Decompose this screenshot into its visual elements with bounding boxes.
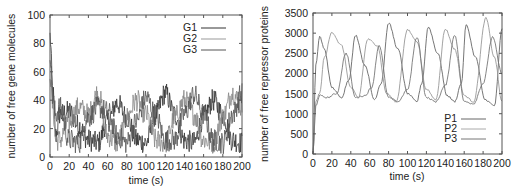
x-tick-label: 140 — [437, 157, 455, 169]
x-tick-label: 80 — [121, 160, 133, 172]
y-tick-label: 100 — [27, 9, 45, 21]
y-tick-label: 1500 — [285, 88, 309, 100]
legend: G1 G2 G3 — [183, 21, 226, 55]
x-tick-label: 0 — [310, 157, 316, 169]
legend-label-g3: G3 — [183, 43, 197, 55]
y-tick-label: 500 — [290, 128, 308, 140]
x-axis-title: time (s) — [390, 170, 425, 182]
series-lines — [313, 17, 502, 154]
legend: P1 P2 P3 — [444, 112, 486, 144]
y-tick-label: 80 — [33, 37, 45, 49]
x-tick-label: 80 — [383, 157, 395, 169]
x-tick-label: 180 — [214, 160, 232, 172]
y-tick-label: 3500 — [285, 7, 309, 19]
series-lines — [50, 33, 242, 154]
x-tick-label: 180 — [474, 157, 492, 169]
x-tick-label: 160 — [455, 157, 473, 169]
y-tick-label: 3000 — [285, 27, 309, 39]
x-tick-label: 40 — [83, 160, 95, 172]
x-tick-label: 60 — [102, 160, 114, 172]
x-axis-title: time (s) — [129, 174, 164, 186]
y-tick-label: 2500 — [285, 47, 309, 59]
y-tick-label: 20 — [33, 123, 45, 135]
y-tick-label: 0 — [302, 148, 308, 160]
x-tick-label: 140 — [176, 160, 194, 172]
x-tick-label: 200 — [233, 160, 251, 172]
x-tick-label: 40 — [345, 157, 357, 169]
x-tick-label: 120 — [156, 160, 174, 172]
repressor-proteins-plot: 0204060801001201401601802000500100015002… — [257, 0, 514, 196]
x-tick-label: 200 — [493, 157, 511, 169]
y-axis-title: number of free gene molecules — [5, 14, 17, 159]
y-tick-label: 1000 — [285, 108, 309, 120]
series-line-p1 — [313, 23, 502, 154]
x-tick-label: 160 — [195, 160, 213, 172]
gene-molecules-plot: 020406080100120140160180200020406080100 … — [0, 0, 257, 196]
axis-ticks: 020406080100120140160180200020406080100 — [27, 9, 250, 172]
y-tick-label: 2000 — [285, 67, 309, 79]
x-tick-label: 20 — [63, 160, 75, 172]
repressor-proteins-chart: 0204060801001201401601802000500100015002… — [257, 0, 514, 196]
y-axis-title: number of free repressor proteins — [258, 6, 270, 162]
x-tick-label: 20 — [326, 157, 338, 169]
y-tick-label: 60 — [33, 66, 45, 78]
plot-frame — [313, 13, 502, 154]
x-tick-label: 100 — [137, 160, 155, 172]
y-tick-label: 40 — [33, 94, 45, 106]
gene-molecules-chart: 020406080100120140160180200020406080100 … — [0, 0, 257, 196]
y-tick-label: 0 — [39, 151, 45, 163]
x-tick-label: 100 — [399, 157, 417, 169]
x-tick-label: 0 — [47, 160, 53, 172]
x-tick-label: 60 — [364, 157, 376, 169]
series-line-p2 — [313, 17, 502, 153]
x-tick-label: 120 — [418, 157, 436, 169]
legend-label-p3: P3 — [444, 132, 457, 144]
